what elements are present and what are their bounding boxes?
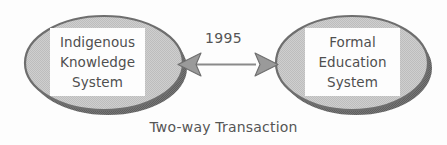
diagram-canvas: Indigenous Knowledge System Formal Educa…: [0, 0, 447, 145]
node-left-line-2: Knowledge: [60, 52, 135, 72]
node-right-line-2: Education: [318, 52, 386, 72]
arrow-year-label: 1995: [0, 30, 447, 46]
two-way-arrow[interactable]: [178, 53, 278, 76]
node-left-line-3: System: [72, 72, 123, 92]
node-right-line-3: System: [327, 72, 378, 92]
arrowhead-right-icon: [255, 53, 278, 76]
diagram-caption: Two-way Transaction: [0, 119, 447, 135]
